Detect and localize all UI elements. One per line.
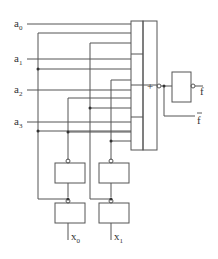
label-x0: x0 <box>71 230 81 245</box>
inverter-bubble-icon <box>157 84 161 88</box>
label-a0: a0 <box>14 17 23 32</box>
label-a1: a1 <box>14 52 23 67</box>
wire-x1n-bus <box>111 80 131 160</box>
label-x1: x1 <box>114 230 124 245</box>
gate-x0-lower <box>55 203 85 223</box>
gate-x0-upper <box>55 163 85 183</box>
gate-x1-upper <box>99 163 129 183</box>
label-a2: a2 <box>14 83 23 98</box>
wire-fbar <box>164 86 195 116</box>
wire-x0n-bus <box>68 98 131 160</box>
circuit-diagram: a0 a1 a2 a3 x0 x1 + f f <box>0 0 218 259</box>
label-f: f <box>200 85 204 97</box>
label-a3: a3 <box>14 115 23 130</box>
label-f-bar: f <box>197 114 201 126</box>
gate-x1-lower <box>99 203 129 223</box>
inverter-gate <box>172 72 191 102</box>
or-symbol: + <box>147 80 153 92</box>
